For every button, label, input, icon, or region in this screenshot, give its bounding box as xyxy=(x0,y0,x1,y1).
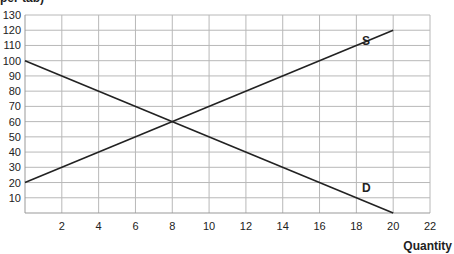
supply-demand-chart: 1020304050607080901001101201302468101214… xyxy=(0,0,454,254)
y-tick-label: 50 xyxy=(9,131,21,143)
y-tick-label: 10 xyxy=(9,192,21,204)
x-tick-label: 10 xyxy=(203,220,215,232)
x-tick-label: 4 xyxy=(96,220,102,232)
x-tick-label: 2 xyxy=(59,220,65,232)
x-tick-label: 22 xyxy=(424,220,436,232)
y-tick-label: 110 xyxy=(3,39,21,51)
x-tick-label: 8 xyxy=(169,220,175,232)
x-tick-label: 12 xyxy=(240,220,252,232)
x-tick-label: 6 xyxy=(132,220,138,232)
demand-label: D xyxy=(362,181,371,195)
x-tick-label: 20 xyxy=(387,220,399,232)
y-tick-label: 70 xyxy=(9,100,21,112)
y-tick-label: 130 xyxy=(3,9,21,21)
y-tick-label: 20 xyxy=(9,177,21,189)
y-tick-label: 90 xyxy=(9,70,21,82)
y-tick-label: 30 xyxy=(9,161,21,173)
x-tick-label: 18 xyxy=(350,220,362,232)
x-tick-label: 14 xyxy=(277,220,289,232)
y-tick-label: 80 xyxy=(9,85,21,97)
y-tick-label: 120 xyxy=(3,24,21,36)
supply-label: S xyxy=(362,34,370,48)
y-tick-label: 40 xyxy=(9,146,21,158)
x-axis-title: Quantity xyxy=(403,239,452,253)
y-tick-label: 100 xyxy=(3,55,21,67)
x-tick-label: 16 xyxy=(313,220,325,232)
y-tick-label: 60 xyxy=(9,116,21,128)
